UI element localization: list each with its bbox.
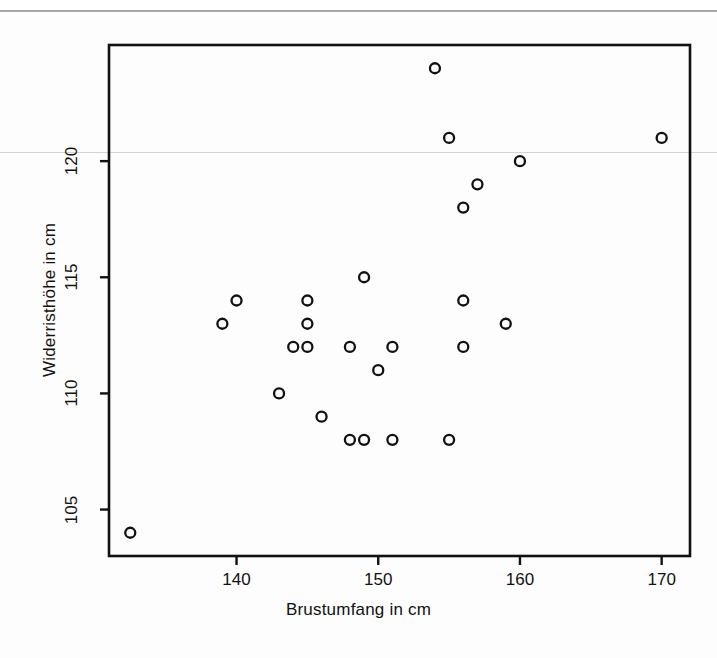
- x-axis-ticks: [237, 556, 662, 565]
- data-point-marker: [125, 528, 135, 538]
- data-point-marker: [387, 435, 397, 445]
- data-point-marker: [345, 342, 355, 352]
- data-point-marker: [430, 63, 440, 73]
- data-point-marker: [302, 296, 312, 306]
- data-point-marker: [472, 179, 482, 189]
- data-point-marker: [515, 156, 525, 166]
- x-tick-label: 160: [506, 570, 534, 590]
- y-axis-ticks: [100, 161, 109, 509]
- data-point-marker: [359, 272, 369, 282]
- data-point-marker: [387, 342, 397, 352]
- plot-canvas: [0, 0, 717, 658]
- data-point-marker: [373, 365, 383, 375]
- data-point-marker: [302, 319, 312, 329]
- data-point-marker: [288, 342, 298, 352]
- data-point-marker: [458, 203, 468, 213]
- data-point-marker: [232, 296, 242, 306]
- y-tick-label: 110: [62, 380, 82, 407]
- data-point-marker: [274, 388, 284, 398]
- data-point-marker: [444, 435, 454, 445]
- data-point-marker: [345, 435, 355, 445]
- x-tick-label: 170: [647, 570, 675, 590]
- data-point-marker: [458, 296, 468, 306]
- y-tick-label: 105: [62, 495, 82, 523]
- data-point-marker: [657, 133, 667, 143]
- data-point-marker: [359, 435, 369, 445]
- plot-border: [109, 45, 690, 556]
- y-axis-title: Widerristhöhe in cm: [40, 110, 60, 490]
- data-point-marker: [217, 319, 227, 329]
- y-tick-label: 115: [62, 264, 82, 291]
- data-point-marker: [458, 342, 468, 352]
- y-tick-label: 120: [62, 147, 82, 175]
- data-point-marker: [317, 412, 327, 422]
- data-point-marker: [501, 319, 511, 329]
- x-tick-label: 140: [222, 570, 250, 590]
- x-axis-title: Brustumfang in cm: [0, 600, 717, 620]
- plot-frame: [109, 45, 690, 556]
- scatter-plot-page: Brustumfang in cm Widerristhöhe in cm 14…: [0, 0, 717, 658]
- x-tick-label: 150: [364, 570, 392, 590]
- data-point-marker: [444, 133, 454, 143]
- data-point-marker: [302, 342, 312, 352]
- data-points-group: [125, 63, 666, 538]
